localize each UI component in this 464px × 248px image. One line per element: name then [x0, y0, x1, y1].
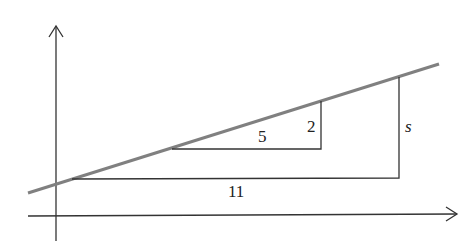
y-axis	[49, 26, 63, 241]
small-run-label: 5	[258, 128, 267, 145]
large-run-label: 11	[228, 183, 244, 200]
x-axis	[28, 207, 457, 221]
large-rise-label: s	[405, 118, 412, 135]
slope-diagram: 5 2 11 s	[0, 0, 464, 248]
diagram-svg	[0, 0, 464, 248]
small-rise-label: 2	[307, 118, 316, 135]
sloped-line	[28, 64, 439, 193]
